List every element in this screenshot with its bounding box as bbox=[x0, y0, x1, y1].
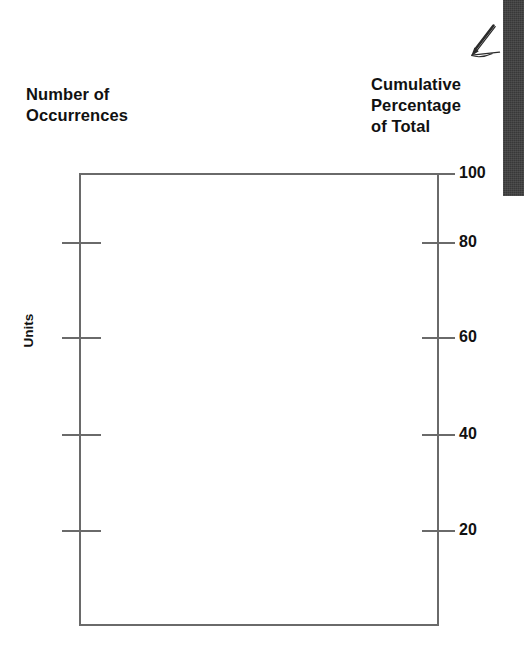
pencil-icon bbox=[462, 22, 506, 64]
tick-label-20: 20 bbox=[459, 522, 477, 538]
left-axis-tick-3 bbox=[62, 434, 101, 436]
right-axis-tick-40 bbox=[422, 434, 455, 436]
axis-left-line bbox=[79, 173, 81, 626]
tick-label-80: 80 bbox=[459, 234, 477, 250]
right-axis-tick-60 bbox=[422, 337, 455, 339]
right-axis-tick-20 bbox=[422, 530, 455, 532]
tick-label-40: 40 bbox=[459, 426, 477, 442]
axis-top-line bbox=[79, 173, 439, 175]
axis-right-line bbox=[437, 173, 439, 626]
page-gutter-bar bbox=[503, 0, 524, 196]
page-canvas: Number of Occurrences Cumulative Percent… bbox=[0, 0, 524, 661]
axis-bottom-line bbox=[79, 624, 439, 626]
tick-label-100: 100 bbox=[459, 165, 486, 181]
left-axis-title: Number of Occurrences bbox=[26, 84, 226, 126]
right-axis-tick-80 bbox=[422, 242, 455, 244]
left-axis-tick-1 bbox=[62, 242, 101, 244]
tick-label-60: 60 bbox=[459, 329, 477, 345]
right-axis-title: Cumulative Percentage of Total bbox=[371, 74, 491, 137]
vertical-axis-label-units: Units bbox=[21, 299, 36, 363]
right-axis-tick-100 bbox=[422, 173, 455, 175]
left-axis-tick-4 bbox=[62, 530, 101, 532]
left-axis-tick-2 bbox=[62, 337, 101, 339]
